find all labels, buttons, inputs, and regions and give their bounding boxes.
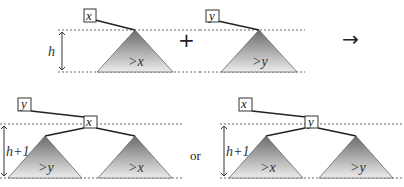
root-node-label: x bbox=[240, 96, 247, 111]
height-label: h bbox=[48, 44, 55, 59]
child-node-label: x bbox=[85, 114, 92, 129]
subtree-label: >x bbox=[128, 54, 144, 69]
node-label: y bbox=[207, 8, 215, 23]
subtree-label: >y bbox=[252, 54, 268, 69]
bottom-left-tree: h+1 >y >x y x bbox=[0, 96, 183, 178]
right-subtree-label: >y bbox=[350, 160, 366, 175]
root-node-label: y bbox=[19, 96, 27, 111]
edge-left bbox=[45, 128, 84, 136]
right-subtree-label: >x bbox=[128, 160, 144, 175]
edge-root bbox=[252, 111, 306, 117]
or-label: or bbox=[190, 148, 202, 163]
plus-sign: + bbox=[178, 28, 195, 52]
edge-right bbox=[318, 128, 356, 136]
bottom-right-tree: h+1 >x >y x y bbox=[220, 96, 404, 178]
edge-right bbox=[96, 128, 135, 136]
height-label: h+1 bbox=[6, 144, 29, 159]
edge-left bbox=[266, 128, 305, 136]
node-label: x bbox=[85, 8, 92, 23]
edge bbox=[218, 21, 259, 30]
tree-merge-diagram: h >x x + >y y → h+1 >y >x y x or bbox=[0, 0, 404, 187]
left-subtree-label: >y bbox=[38, 160, 54, 175]
child-node-label: y bbox=[306, 114, 314, 129]
left-subtree-label: >x bbox=[260, 160, 276, 175]
edge bbox=[95, 20, 135, 30]
edge-root bbox=[31, 111, 84, 117]
top-right-tree: >y y bbox=[200, 8, 305, 72]
arrow-sign: → bbox=[342, 27, 359, 51]
height-label: h+1 bbox=[226, 144, 249, 159]
